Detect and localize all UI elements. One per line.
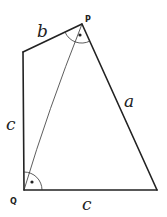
label-side-b: b — [37, 21, 48, 41]
diagonal-pq — [24, 24, 82, 190]
side-c-left — [23, 52, 24, 190]
label-side-c-left: c — [6, 114, 16, 134]
angle-dot-p — [78, 33, 81, 36]
label-vertex-p: P — [85, 15, 91, 24]
label-vertex-q: Q — [10, 197, 17, 206]
label-side-a: a — [124, 91, 134, 111]
label-side-c-bottom: c — [82, 194, 92, 214]
angle-dot-q — [30, 180, 33, 183]
side-a — [82, 24, 157, 190]
quadrilateral-diagram: b a c c P Q — [0, 0, 167, 217]
